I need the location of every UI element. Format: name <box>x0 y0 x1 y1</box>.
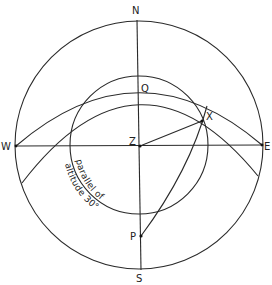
hour-circle-arc <box>141 106 207 236</box>
label-east: E <box>264 141 270 152</box>
label-zenith: Z <box>129 136 136 147</box>
label-pole: P <box>130 231 136 242</box>
west-point <box>15 145 18 148</box>
zenith-point <box>138 144 141 147</box>
east-point <box>261 144 264 147</box>
zenith-to-x-line <box>140 121 202 146</box>
label-west: W <box>1 141 11 152</box>
label-q: Q <box>141 83 149 94</box>
label-north: N <box>132 5 139 16</box>
diagram-canvas: N S W E Z Q X P parallel of altitude 30° <box>0 0 272 285</box>
label-south: S <box>136 273 142 284</box>
x-point <box>200 119 203 122</box>
pole-point <box>139 234 142 237</box>
label-x: X <box>206 111 213 122</box>
